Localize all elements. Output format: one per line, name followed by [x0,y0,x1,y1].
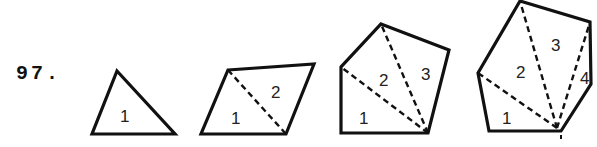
hexagon-region-label: 2 [516,63,525,82]
figure-hexagon: 1234 [478,1,591,131]
figure-pentagon: 123 [341,24,449,133]
triangle-outline [92,71,175,134]
quadrilateral-region-label: 1 [231,109,240,128]
pentagon-region-label: 3 [421,65,430,84]
hexagon-region-label: 1 [502,109,511,128]
quadrilateral-outline [201,64,314,134]
triangle-region-label: 1 [120,107,129,126]
polygon-triangulation-diagram: 1121231234 [0,0,597,147]
pentagon-outline [341,24,449,133]
pentagon-region-label: 1 [359,109,368,128]
hexagon-region-label: 3 [551,36,560,55]
stray-mark [560,135,562,139]
figure-quadrilateral: 12 [201,64,314,134]
pentagon-region-label: 2 [379,71,388,90]
hexagon-outline [478,1,591,131]
hexagon-region-label: 4 [580,69,589,88]
hexagon-dashed-diagonal-2 [520,1,557,128]
figure-triangle: 1 [92,71,175,134]
quadrilateral-region-label: 2 [271,83,280,102]
